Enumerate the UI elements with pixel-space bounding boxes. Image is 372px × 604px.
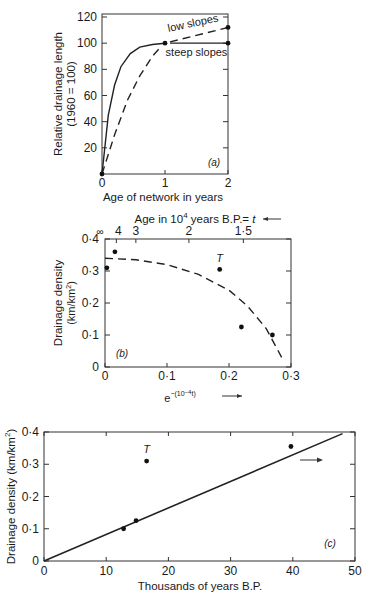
fit-line xyxy=(44,434,343,561)
chart-a: 20406080100120012Age of network in years… xyxy=(52,10,232,203)
y-axis-title-line2: (1960 = 100) xyxy=(65,61,77,127)
plot-frame xyxy=(105,239,291,367)
low-slopes-curve xyxy=(102,46,162,174)
low-slopes-label: low slopes xyxy=(167,11,220,34)
y-tick-label: 0·3 xyxy=(82,264,100,278)
data-point xyxy=(289,444,294,449)
y-tick-label: 0 xyxy=(32,554,39,568)
x-tick-label: 1 xyxy=(162,176,169,190)
x-tick-label: 20 xyxy=(162,564,176,578)
y-tick-label: 0·2 xyxy=(82,296,100,310)
figure: 20406080100120012Age of network in years… xyxy=(0,0,372,604)
point-label: T xyxy=(216,252,224,264)
top-tick-label: 1·5 xyxy=(235,224,253,238)
x-tick-label: 50 xyxy=(348,564,362,578)
y-tick-label: 40 xyxy=(84,115,98,129)
top-tick-label: 3 xyxy=(133,224,140,238)
top-tick-label: 4 xyxy=(115,224,122,238)
data-point xyxy=(226,41,231,46)
steep-slopes-label: steep slopes xyxy=(166,46,228,58)
panel-label: (b) xyxy=(116,348,128,359)
y-tick-label: 100 xyxy=(77,36,97,50)
fit-curve xyxy=(105,258,282,357)
x-tick-label: 0·2 xyxy=(220,369,238,383)
data-point xyxy=(113,249,118,254)
y-tick-label: 20 xyxy=(84,141,98,155)
x-tick-label: 0 xyxy=(99,176,106,190)
arrow-right-head xyxy=(237,394,242,398)
plot-frame xyxy=(102,14,228,174)
x-tick-label: 40 xyxy=(286,564,300,578)
steep-slopes-curve xyxy=(102,43,165,174)
data-point xyxy=(144,459,149,464)
y-axis-title: Relative drainage length(1960 = 100) xyxy=(52,32,77,156)
x-tick-label: 0 xyxy=(41,564,48,578)
x-axis-title: Thousands of years B.P. xyxy=(138,580,262,592)
point-label: T xyxy=(143,443,151,455)
x-tick-label: 2 xyxy=(225,176,232,190)
y-tick-label: 0 xyxy=(92,360,99,374)
y-tick-label: 0·1 xyxy=(22,522,40,536)
data-point xyxy=(217,267,222,272)
x-tick-label: 30 xyxy=(224,564,238,578)
x-tick-label: 0·1 xyxy=(158,369,176,383)
panel-label: (a) xyxy=(208,157,220,168)
chart-b: 00·10·20·30·400·10·20·3∞4321·5Age in 104… xyxy=(52,211,300,404)
data-point xyxy=(163,41,168,46)
y-tick-label: 80 xyxy=(84,62,98,76)
data-point xyxy=(239,325,244,330)
x-tick-label: 0·3 xyxy=(282,369,300,383)
chart-c: 00·10·20·30·401020304050Thousands of yea… xyxy=(3,425,362,592)
panel-label: (c) xyxy=(324,538,336,549)
y-tick-label: 0·4 xyxy=(22,425,40,439)
y-tick-label: 60 xyxy=(84,89,98,103)
data-point xyxy=(134,518,139,523)
x-tick-label: 10 xyxy=(100,564,114,578)
arrow-left-head xyxy=(263,217,268,221)
x-axis-title: Age of network in years xyxy=(103,191,223,203)
y-tick-label: 120 xyxy=(77,10,97,24)
data-point xyxy=(100,172,105,177)
y-axis-title: Drainage density (km/km2) xyxy=(3,429,17,565)
y-tick-label: 0·1 xyxy=(82,328,100,342)
top-tick-label: 2 xyxy=(186,224,193,238)
top-axis-title: Age in 104 years B.P.= t xyxy=(135,211,257,225)
y-axis-title-line1: Relative drainage length xyxy=(52,32,64,156)
y-tick-label: 0·2 xyxy=(22,490,40,504)
top-tick-label: ∞ xyxy=(96,226,103,237)
y-axis-title-line2: (km/km2) xyxy=(65,281,77,325)
data-point xyxy=(270,333,275,338)
y-tick-label: 0·3 xyxy=(22,457,40,471)
y-axis-title-line1: Drainage density xyxy=(52,260,64,347)
x-axis-title: e−(10−4t) xyxy=(164,389,195,404)
y-axis-title: Drainage density(km/km2) xyxy=(52,260,77,347)
data-point xyxy=(226,25,231,30)
data-point xyxy=(104,265,109,270)
arrow-right-head xyxy=(317,458,323,463)
y-axis-title-text: Drainage density (km/km2) xyxy=(3,429,17,565)
x-tick-label: 0 xyxy=(102,369,109,383)
data-point xyxy=(121,526,126,531)
